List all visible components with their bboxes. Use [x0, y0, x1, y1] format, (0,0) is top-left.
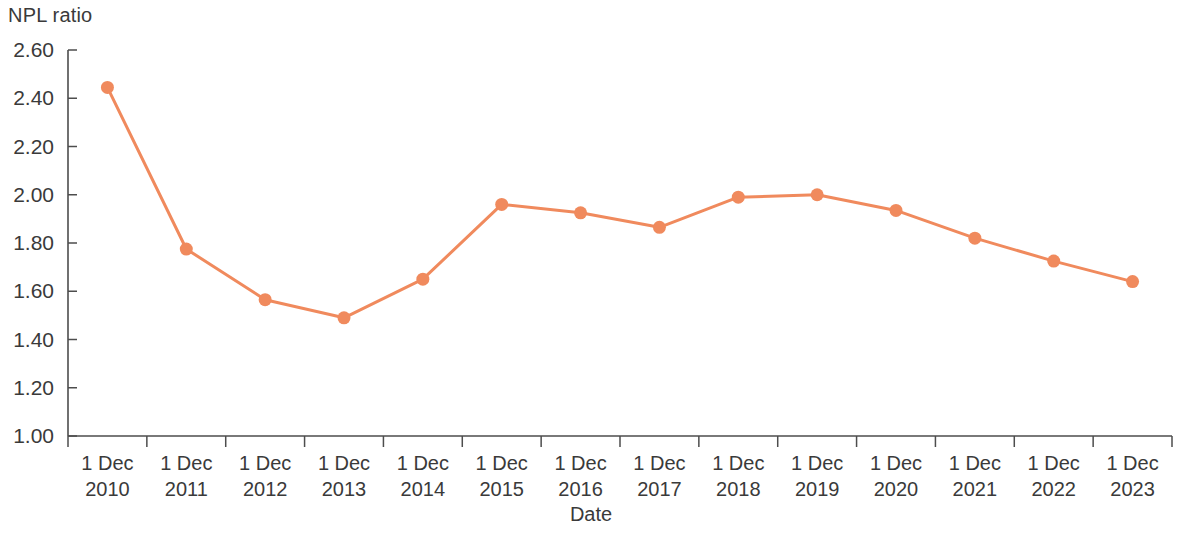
x-axis-tick-labels: 1 Dec20101 Dec20111 Dec20121 Dec20131 De… [81, 452, 1158, 500]
data-point-marker [890, 204, 903, 217]
x-axis-tick-label: 1 Dec2011 [160, 452, 212, 500]
data-point-marker [180, 243, 193, 256]
y-axis-tick-label: 1.00 [13, 424, 54, 447]
chart-plot-area: 1.001.201.401.601.802.002.202.402.60 1 D… [0, 0, 1182, 534]
data-point-marker [338, 311, 351, 324]
x-axis-tick-label: 1 Dec2019 [791, 452, 843, 500]
npl-ratio-series-line [107, 87, 1132, 317]
y-axis-tick-label: 2.00 [13, 183, 54, 206]
npl-ratio-series-markers [101, 81, 1139, 324]
y-axis-tick-label: 2.40 [13, 86, 54, 109]
x-axis-tick-label: 1 Dec2021 [949, 452, 1001, 500]
y-axis-tick-label: 1.20 [13, 376, 54, 399]
data-point-marker [811, 188, 824, 201]
y-axis-tick-label: 1.40 [13, 328, 54, 351]
x-axis-tick-label: 1 Dec2015 [476, 452, 528, 500]
y-axis-tick-label: 2.60 [13, 38, 54, 61]
x-axis-tick-label: 1 Dec2022 [1028, 452, 1080, 500]
data-point-marker [968, 232, 981, 245]
y-axis-tick-label: 1.80 [13, 231, 54, 254]
x-axis-tick-label: 1 Dec2010 [81, 452, 133, 500]
x-axis-tick-label: 1 Dec2017 [633, 452, 685, 500]
y-axis-tick-marks [68, 50, 77, 436]
y-axis-tick-label: 1.60 [13, 279, 54, 302]
data-point-marker [653, 221, 666, 234]
x-axis-tick-label: 1 Dec2018 [712, 452, 764, 500]
x-axis-tick-label: 1 Dec2014 [397, 452, 449, 500]
x-axis-tick-label: 1 Dec2012 [239, 452, 291, 500]
x-axis-title: Date [0, 503, 1182, 526]
x-axis-tick-label: 1 Dec2016 [554, 452, 606, 500]
data-point-marker [1126, 275, 1139, 288]
x-axis-tick-label: 1 Dec2013 [318, 452, 370, 500]
x-axis-tick-marks [68, 436, 1172, 447]
x-axis-tick-label: 1 Dec2020 [870, 452, 922, 500]
x-axis-tick-label: 1 Dec2023 [1106, 452, 1158, 500]
data-point-marker [732, 191, 745, 204]
data-point-marker [101, 81, 114, 94]
y-axis-tick-labels: 1.001.201.401.601.802.002.202.402.60 [13, 38, 54, 447]
data-point-marker [259, 293, 272, 306]
data-point-marker [416, 273, 429, 286]
npl-ratio-line-chart: NPL ratio 1.001.201.401.601.802.002.202.… [0, 0, 1182, 534]
data-point-marker [1047, 255, 1060, 268]
data-point-marker [574, 206, 587, 219]
data-point-marker [495, 198, 508, 211]
y-axis-tick-label: 2.20 [13, 135, 54, 158]
